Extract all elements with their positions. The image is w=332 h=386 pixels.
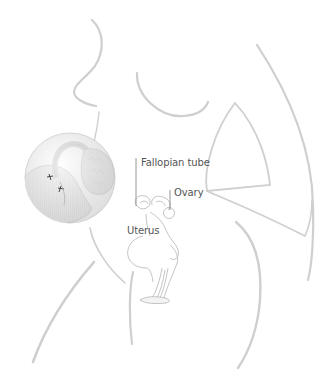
hip-curve xyxy=(236,222,260,368)
label-uterus: Uterus xyxy=(127,225,159,236)
magnified-inset xyxy=(20,133,115,224)
arm-outline xyxy=(206,103,270,191)
forearm-line xyxy=(207,191,312,236)
anatomy-diagram xyxy=(0,0,332,386)
reproductive-organs xyxy=(128,196,179,304)
breast-curve xyxy=(137,73,208,116)
thigh-left xyxy=(33,262,94,362)
label-ovary: Ovary xyxy=(174,187,203,198)
left-tube xyxy=(135,196,150,209)
profile-curve xyxy=(74,20,102,106)
label-fallopian-tube: Fallopian tube xyxy=(141,157,210,168)
waist-curve xyxy=(90,228,125,283)
thigh-inner xyxy=(130,272,133,344)
